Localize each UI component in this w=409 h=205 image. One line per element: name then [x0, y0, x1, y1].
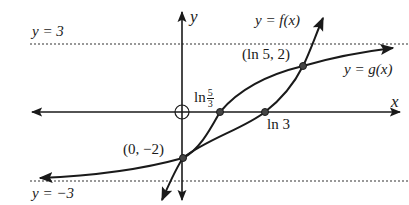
ln-prefix: ln: [194, 89, 206, 105]
y-axis-label: y: [190, 8, 198, 25]
label-ln-5-over-3: ln53: [194, 88, 214, 109]
label-y-eq-neg3: y = −3: [32, 186, 74, 201]
point-ln5over3: [217, 109, 224, 116]
label-g: y = g(x): [344, 62, 392, 77]
point-ln5-2: [300, 63, 307, 70]
point-0-neg2: [180, 155, 187, 162]
label-y-eq-3: y = 3: [32, 24, 64, 39]
label-point-ln5-2: (ln 5, 2): [242, 47, 290, 62]
fraction-5-3: 53: [207, 88, 214, 109]
x-axis-label: x: [391, 93, 399, 110]
label-point-0-neg2: (0, −2): [123, 142, 164, 157]
label-ln3: ln 3: [267, 117, 290, 132]
label-f: y = f(x): [255, 13, 300, 28]
frac-denominator: 3: [207, 99, 214, 109]
point-ln3: [262, 109, 269, 116]
